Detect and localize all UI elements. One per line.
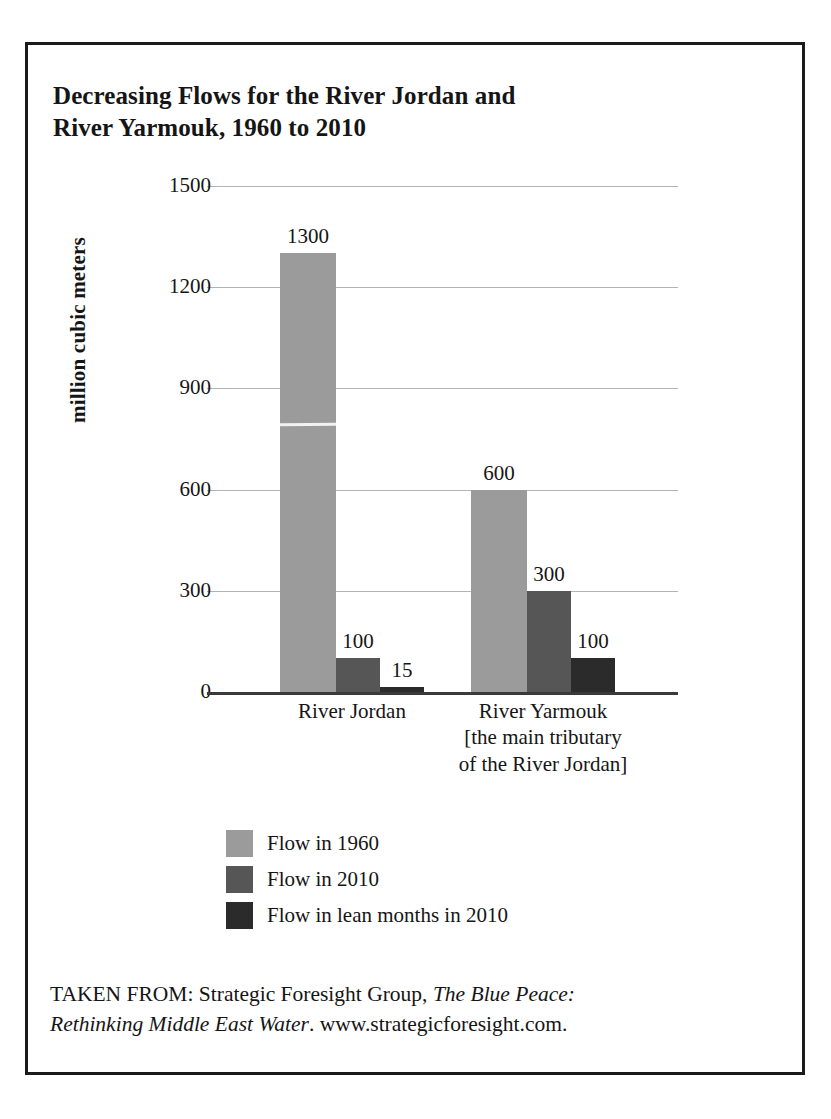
bar-value-label: 100 <box>342 629 374 654</box>
figure-frame: Decreasing Flows for the River Jordan an… <box>25 42 805 1075</box>
legend-item: Flow in 1960 <box>226 830 686 857</box>
page-title: Decreasing Flows for the River Jordan an… <box>53 80 753 145</box>
legend-swatch <box>226 902 253 929</box>
y-axis-tick-label: 300 <box>180 578 212 603</box>
bar: 100 <box>336 658 380 692</box>
legend-label: Flow in 1960 <box>267 831 379 856</box>
legend-swatch <box>226 830 253 857</box>
legend-label: Flow in 2010 <box>267 867 379 892</box>
y-axis-tick-label: 1500 <box>169 173 211 198</box>
bar-value-label: 15 <box>392 658 413 683</box>
bar-value-label: 600 <box>483 461 515 486</box>
legend-item: Flow in 2010 <box>226 866 686 893</box>
y-axis-tick-label: 600 <box>180 477 212 502</box>
source-line-2: Rethinking Middle East Water. www.strate… <box>50 1009 770 1040</box>
source-prefix: TAKEN FROM: Strategic Foresight Group, <box>50 982 433 1006</box>
bar: 1300 <box>280 253 336 692</box>
source-work-title-line-1: The Blue Peace: <box>433 982 575 1006</box>
scan-line-artifact <box>280 422 336 426</box>
legend: Flow in 1960Flow in 2010Flow in lean mon… <box>226 830 686 938</box>
category-label-line: of the River Jordan] <box>393 751 693 777</box>
source-work-title-line-2: Rethinking Middle East Water <box>50 1012 309 1036</box>
bar-value-label: 1300 <box>287 224 329 249</box>
title-line-2: River Yarmouk, 1960 to 2010 <box>53 112 753 145</box>
bar: 300 <box>527 591 571 692</box>
source-citation: TAKEN FROM: Strategic Foresight Group, T… <box>50 979 770 1040</box>
y-axis-title: million cubic meters <box>66 237 91 423</box>
y-axis-tick-label: 900 <box>180 375 212 400</box>
legend-swatch <box>226 866 253 893</box>
category-label-line: River Yarmouk <box>393 698 693 724</box>
legend-item: Flow in lean months in 2010 <box>226 902 686 929</box>
category-label-line: [the main tributary <box>393 724 693 750</box>
gridline <box>225 186 678 187</box>
bar-value-label: 300 <box>533 562 565 587</box>
title-line-1: Decreasing Flows for the River Jordan an… <box>53 80 753 113</box>
bar: 600 <box>471 490 527 692</box>
plot-area: 030060090012001500 130010015600300100 Ri… <box>225 186 678 692</box>
y-axis-tick-label: 1200 <box>169 274 211 299</box>
source-suffix: . www.strategicforesight.com. <box>309 1012 567 1036</box>
source-line-1: TAKEN FROM: Strategic Foresight Group, T… <box>50 979 770 1010</box>
bar-chart: million cubic meters 030060090012001500 … <box>28 153 802 713</box>
bar: 100 <box>571 658 615 692</box>
legend-label: Flow in lean months in 2010 <box>267 903 508 928</box>
x-axis-category-label: River Yarmouk[the main tributaryof the R… <box>393 698 693 777</box>
bar-value-label: 100 <box>577 629 609 654</box>
x-axis-line <box>207 692 678 695</box>
